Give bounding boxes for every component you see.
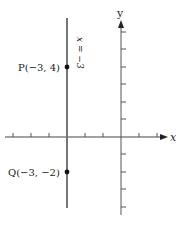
x-axis-label: x [170, 131, 177, 144]
point-q-dot [65, 170, 70, 175]
y-axis-ticks [121, 32, 126, 207]
x-axis-ticks [13, 133, 157, 137]
point-p-dot [65, 65, 70, 70]
y-axis-label: y [116, 7, 124, 20]
point-q: Q(−3, −2) [8, 167, 69, 178]
y-axis: y [116, 7, 126, 215]
point-p: P(−3, 4) [18, 62, 69, 73]
y-axis-arrow-icon [118, 20, 124, 28]
x-axis-arrow-icon [160, 134, 168, 140]
x-axis: x [5, 131, 177, 144]
point-p-label: P(−3, 4) [18, 62, 60, 73]
point-q-label: Q(−3, −2) [8, 167, 60, 178]
vertical-line-x-neg3: x = −3 [67, 18, 85, 208]
coordinate-plane: x y x = −3 P(−3, 4) Q(−3, −2) [0, 0, 184, 230]
line-equation-label: x = −3 [75, 37, 85, 69]
